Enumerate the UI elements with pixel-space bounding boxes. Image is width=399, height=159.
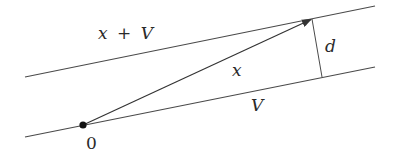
label-origin-zero: 0 [86, 135, 97, 152]
line-V [25, 67, 375, 137]
line-x-plus-V [25, 6, 375, 77]
label-x: x [232, 62, 242, 79]
distance-d-segment [312, 19, 322, 77]
origin-dot [79, 121, 86, 128]
label-x-plus-V: x + V [98, 25, 153, 42]
diagram-svg [0, 0, 399, 159]
label-d: d [325, 38, 336, 55]
label-V: V [251, 97, 263, 114]
diagram-canvas: x + V x V d 0 [0, 0, 399, 159]
